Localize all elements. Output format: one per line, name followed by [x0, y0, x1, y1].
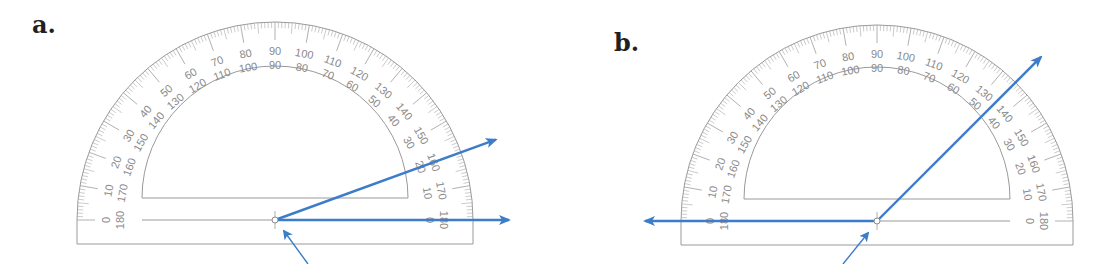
inner-scale-label: 90 [269, 59, 281, 71]
inner-scale-label: 10 [421, 186, 435, 200]
vertex-point [874, 218, 880, 224]
inner-scale-label: 0 [1024, 218, 1036, 224]
inner-scale-label: 180 [114, 211, 126, 229]
protractor-diagram: 0180101702016030150401405013060120701108… [0, 0, 1095, 264]
outer-scale-label: 180 [1038, 212, 1050, 230]
inner-scale-label: 10 [1021, 187, 1035, 201]
outer-scale-label: 80 [841, 49, 855, 63]
inner-scale-label: 80 [897, 63, 911, 77]
inner-scale-label: 80 [295, 60, 309, 74]
outer-scale-label: 10 [102, 184, 116, 198]
outer-scale-label: 90 [871, 48, 883, 60]
protractor-a: 0180101702016030150401405013060120701108… [77, 22, 509, 264]
vertex-point [272, 217, 278, 223]
outer-scale-label: 80 [239, 47, 253, 61]
outer-scale-label: 10 [705, 185, 719, 199]
protractor-b: 0180101702016030150401405013060120701108… [645, 25, 1073, 264]
inner-scale-label: 90 [871, 62, 883, 74]
outer-scale-label: 90 [269, 45, 281, 57]
outer-scale-label: 0 [100, 217, 112, 223]
